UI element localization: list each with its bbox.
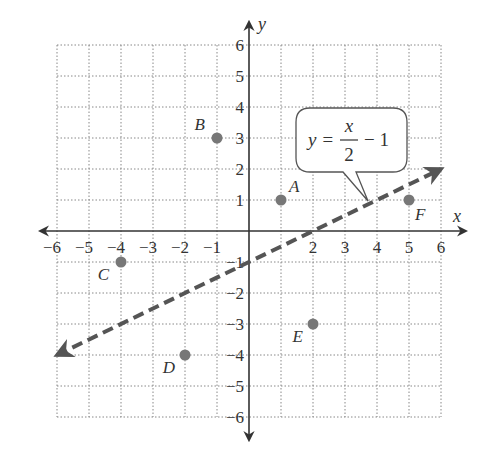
x-tick-label: −5 [75, 238, 93, 257]
equation-rhs: − 1 [364, 129, 389, 150]
coordinate-plane: −6−5−4−3−2−123456654321−1−2−3−4−5−6 ABCD… [0, 0, 487, 461]
point-label-d: D [162, 358, 176, 377]
point-a [276, 195, 287, 206]
y-tick-label: 5 [236, 67, 245, 86]
point-label-e: E [292, 327, 304, 346]
point-label-a: A [288, 177, 300, 196]
y-tick-label: −6 [226, 408, 244, 427]
y-tick-label: −3 [226, 315, 244, 334]
point-c [116, 257, 127, 268]
point-f [404, 195, 415, 206]
point-label-c: C [98, 265, 110, 284]
axes [40, 22, 466, 440]
y-tick-label: 4 [236, 98, 245, 117]
x-tick-label: −4 [107, 238, 126, 257]
equation-lhs: y = [306, 129, 334, 150]
y-axis-label: y [256, 14, 266, 34]
equation-denominator: 2 [344, 144, 354, 165]
x-tick-label: 6 [437, 238, 446, 257]
y-tick-label: 3 [236, 129, 245, 148]
x-axis-label: x [452, 206, 461, 226]
y-tick-label: −5 [226, 377, 244, 396]
x-tick-label: −3 [139, 238, 157, 257]
x-tick-label: −6 [43, 238, 61, 257]
y-tick-label: −2 [226, 284, 244, 303]
equation-numerator: x [344, 115, 354, 136]
x-tick-label: 2 [309, 238, 318, 257]
point-b [212, 133, 223, 144]
point-label-b: B [195, 115, 206, 134]
y-tick-label: 2 [236, 160, 245, 179]
y-tick-label: 6 [236, 36, 245, 55]
x-tick-label: −2 [171, 238, 189, 257]
point-d [180, 350, 191, 361]
x-tick-label: 3 [341, 238, 350, 257]
y-tick-label: 1 [236, 191, 245, 210]
point-e [308, 319, 319, 330]
y-tick-label: −4 [226, 346, 245, 365]
point-label-f: F [414, 205, 426, 224]
equation-callout: y = x 2 − 1 [296, 108, 407, 201]
x-tick-label: 5 [405, 238, 414, 257]
x-tick-label: 4 [373, 238, 382, 257]
x-tick-label: −1 [203, 238, 221, 257]
